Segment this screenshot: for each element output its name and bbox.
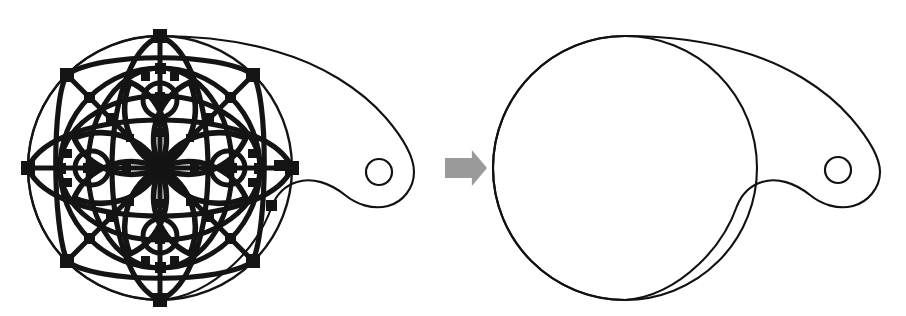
figure-root: Meshed cam geometry Cam geometry outline [0,0,906,316]
figure-canvas: Meshed cam geometry Cam geometry outline [0,0,906,316]
